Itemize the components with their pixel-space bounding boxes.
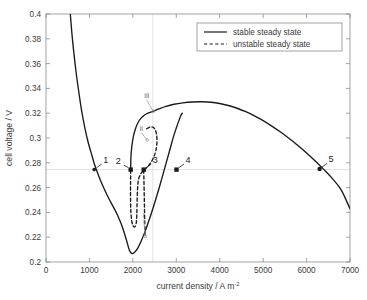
x-tick-label: 7000: [341, 266, 360, 275]
marker-point-4: [174, 167, 178, 171]
y-tick-label: 0.22: [25, 233, 41, 242]
marker-point-2: [128, 167, 132, 171]
legend-label-0: stable steady state: [233, 28, 302, 37]
steady-state-bifurcation-chart: 010002000300040005000600070000.20.220.24…: [0, 0, 367, 300]
x-tick-label: 2000: [124, 266, 143, 275]
series-stable-1: [131, 102, 350, 209]
annotation-label-ii: ii: [140, 124, 144, 133]
marker-label-5: 5: [329, 154, 334, 164]
x-tick-label: 0: [44, 266, 49, 275]
y-tick-label: 0.38: [25, 35, 41, 44]
x-tick-label: 1000: [80, 266, 99, 275]
y-tick-label: 0.36: [25, 60, 41, 69]
y-tick-label: 0.24: [25, 208, 41, 217]
marker-point-1: [92, 168, 96, 172]
annotation-leader-iii: [147, 100, 154, 112]
marker-leader-4: [179, 164, 184, 168]
y-tick-label: 0.34: [25, 84, 41, 93]
y-tick-label: 0.4: [30, 10, 42, 19]
x-axis-title: current density / A m-2: [156, 281, 239, 291]
chart-figure: 010002000300040005000600070000.20.220.24…: [0, 0, 367, 300]
marker-label-1: 1: [103, 155, 108, 165]
series-stable-0: [70, 14, 182, 254]
marker-leader-2: [124, 165, 129, 168]
legend-label-1: unstable steady state: [233, 40, 311, 49]
x-tick-label: 6000: [297, 266, 316, 275]
marker-point-3: [142, 167, 146, 171]
y-tick-label: 0.2: [30, 258, 42, 267]
y-tick-label: 0.26: [25, 184, 41, 193]
marker-leader-5: [322, 164, 327, 168]
x-tick-label: 5000: [254, 266, 273, 275]
marker-label-2: 2: [116, 156, 121, 166]
y-axis-title: cell voltage / V: [4, 110, 14, 166]
marker-label-3: 3: [153, 155, 158, 165]
annotation-label-iii: iii: [144, 91, 149, 100]
y-tick-label: 0.3: [30, 134, 42, 143]
y-tick-label: 0.28: [25, 159, 41, 168]
y-tick-label: 0.32: [25, 109, 41, 118]
marker-label-4: 4: [186, 155, 191, 165]
x-tick-label: 4000: [211, 266, 230, 275]
marker-point-5: [317, 167, 321, 171]
marker-leader-1: [97, 164, 102, 168]
x-tick-label: 3000: [167, 266, 186, 275]
